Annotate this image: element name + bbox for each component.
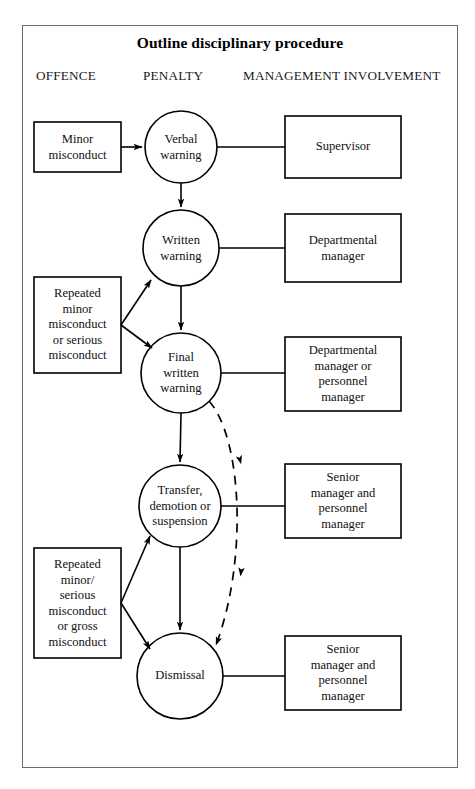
diagram-frame (22, 25, 458, 768)
column-header-penalty: PENALTY (143, 68, 203, 84)
column-header-offence: OFFENCE (36, 68, 96, 84)
column-header-management-involvement: MANAGEMENT INVOLVEMENT (243, 68, 440, 84)
diagram-page: Outline disciplinary procedure OFFENCE P… (0, 0, 475, 789)
page-title: Outline disciplinary procedure (22, 34, 458, 52)
